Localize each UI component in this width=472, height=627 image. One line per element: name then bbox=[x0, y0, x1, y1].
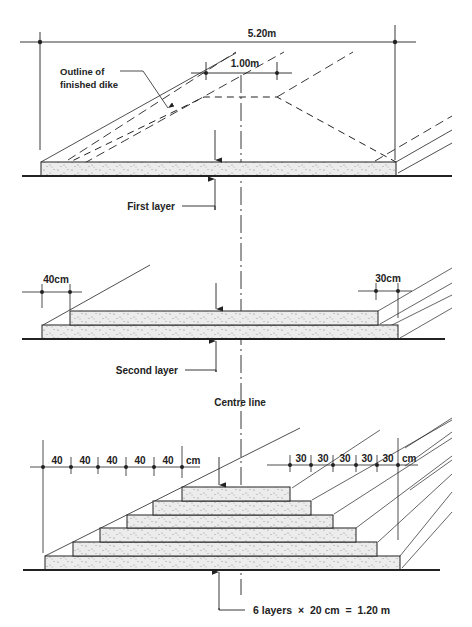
outline-label-line2: finished dike bbox=[60, 79, 118, 90]
crest-width-label: 1.00m bbox=[231, 58, 259, 69]
dimension-dot bbox=[38, 40, 42, 44]
centre-line-label: Centre line bbox=[214, 397, 266, 408]
layer-3 bbox=[100, 528, 356, 542]
outline-label-line1: Outline of bbox=[60, 66, 105, 77]
layer-5 bbox=[153, 501, 311, 515]
layer-2 bbox=[73, 542, 377, 556]
total-height-label: 6 layers × 20 cm = 1.20 m bbox=[253, 604, 390, 616]
left-offset-label: 40cm bbox=[43, 274, 69, 285]
right-step-3: 30 bbox=[339, 453, 351, 464]
right-offset-label: 30cm bbox=[375, 273, 401, 284]
first-layer-label: First layer bbox=[127, 201, 175, 212]
right-step-4: 30 bbox=[361, 453, 373, 464]
section-first-layer: 5.20m 1.00m Outline of finished dike Fir… bbox=[20, 25, 452, 212]
left-step-3: 40 bbox=[106, 455, 118, 466]
dimension-dot bbox=[393, 40, 397, 44]
second-layer bbox=[70, 311, 378, 325]
left-step-5: 40 bbox=[162, 455, 174, 466]
second-section-first-layer bbox=[42, 325, 398, 339]
left-step-1: 40 bbox=[51, 455, 63, 466]
dike-diagram: 5.20m 1.00m Outline of finished dike Fir… bbox=[0, 0, 472, 627]
right-step-1: 30 bbox=[295, 453, 307, 464]
first-layer bbox=[41, 162, 396, 176]
section-second-layer: 40cm 30cm Second layer bbox=[22, 265, 452, 376]
overall-width-label: 5.20m bbox=[248, 28, 276, 39]
layer-1 bbox=[45, 556, 400, 570]
second-layer-label: Second layer bbox=[116, 365, 178, 376]
layer-4 bbox=[127, 515, 333, 528]
left-step-2: 40 bbox=[79, 455, 91, 466]
layer-6 bbox=[182, 487, 290, 501]
left-step-4: 40 bbox=[134, 455, 146, 466]
left-unit: cm bbox=[186, 455, 201, 466]
right-step-2: 30 bbox=[317, 453, 329, 464]
section-six-layers: 40 40 40 40 40 cm 30 30 30 30 30 cm bbox=[23, 418, 452, 616]
